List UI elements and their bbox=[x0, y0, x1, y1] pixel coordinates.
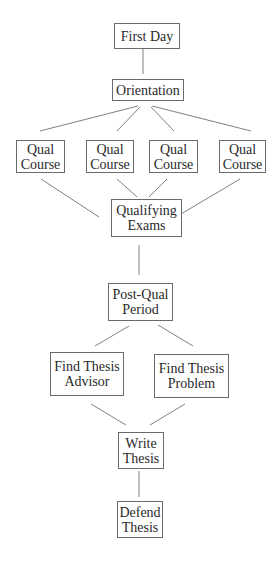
edge-orientation-qual-course-4 bbox=[152, 106, 251, 131]
node-qual-course-4: Qual Course bbox=[219, 140, 266, 173]
node-qual-course-3: Qual Course bbox=[149, 140, 198, 173]
node-find-thesis-advisor: Find Thesis Advisor bbox=[50, 352, 124, 396]
edge-qual-course-2-qualifying-exams bbox=[117, 179, 137, 197]
node-write-thesis: Write Thesis bbox=[118, 432, 164, 469]
node-find-thesis-problem: Find Thesis Problem bbox=[154, 354, 229, 398]
node-qual-course-2: Qual Course bbox=[86, 140, 134, 173]
edge-post-qual-period-find-thesis-advisor bbox=[95, 326, 129, 346]
node-qualifying-exams: Qualifying Exams bbox=[111, 199, 182, 237]
edge-orientation-qual-course-1 bbox=[40, 106, 138, 131]
node-first-day: First Day bbox=[114, 23, 180, 49]
node-post-qual-period: Post-Qual Period bbox=[108, 283, 173, 321]
edge-post-qual-period-find-thesis-problem bbox=[158, 325, 193, 346]
edge-qual-course-3-qualifying-exams bbox=[149, 179, 167, 197]
edge-qual-course-4-qualifying-exams bbox=[181, 179, 240, 214]
node-qual-course-1: Qual Course bbox=[16, 140, 65, 173]
node-orientation: Orientation bbox=[112, 79, 184, 101]
edge-find-thesis-problem-write-thesis bbox=[150, 404, 185, 425]
flowchart-canvas: First Day Orientation Qual Course Qual C… bbox=[0, 0, 279, 561]
node-defend-thesis: Defend Thesis bbox=[117, 501, 163, 538]
edge-qual-course-1-qualifying-exams bbox=[41, 179, 99, 217]
edge-find-thesis-advisor-write-thesis bbox=[91, 404, 126, 425]
